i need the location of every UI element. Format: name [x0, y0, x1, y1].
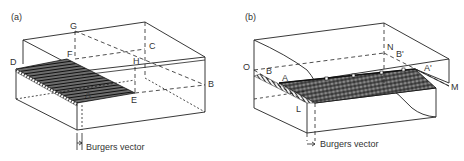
label-E: E — [131, 96, 137, 105]
edge-dislocation-diagram — [0, 0, 232, 161]
panel-b-screw-dislocation: (b) O B A N B' A' M L Burgers vector — [232, 0, 464, 161]
screw-dislocation-diagram — [232, 0, 464, 161]
panel-tag-a: (a) — [11, 13, 22, 22]
label-G: G — [70, 22, 77, 31]
label-L: L — [296, 105, 301, 114]
label-A: A — [282, 74, 288, 83]
label-M: M — [451, 83, 459, 92]
label-B: B — [208, 80, 214, 89]
burgers-vector-marker-b — [307, 142, 315, 146]
burgers-vector-label-b: Burgers vector — [320, 140, 379, 149]
label-H: H — [133, 57, 140, 66]
label-F: F — [67, 50, 73, 59]
label-C: C — [149, 42, 156, 51]
panel-a-edge-dislocation: (a) G F C D H A E B Burgers vector — [0, 0, 232, 161]
panel-tag-b: (b) — [245, 13, 256, 22]
label-B: B — [266, 67, 272, 76]
burgers-vector-label-a: Burgers vector — [86, 143, 145, 152]
label-B-prime: B' — [396, 50, 404, 59]
label-O: O — [243, 63, 250, 72]
label-A-prime: A' — [424, 64, 432, 73]
label-D: D — [10, 58, 17, 67]
burgers-vector-marker-a — [77, 133, 82, 150]
label-A: A — [85, 91, 91, 100]
label-N: N — [387, 43, 394, 52]
